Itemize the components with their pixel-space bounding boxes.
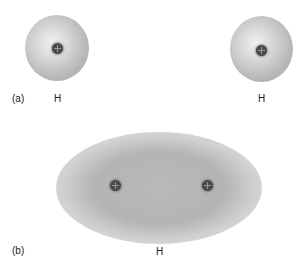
- nucleus-icon: [110, 180, 121, 191]
- hydrogen-atom-right: [230, 16, 293, 82]
- nucleus-icon: [256, 45, 267, 56]
- h2-molecule-cloud: [56, 132, 262, 244]
- atom-label-left: H: [54, 93, 61, 104]
- panel-b-label: (b): [12, 245, 24, 256]
- nucleus-icon: [52, 43, 63, 54]
- atom-label-right: H: [258, 93, 265, 104]
- molecule-label: H: [156, 246, 163, 256]
- hydrogen-atom-left: [25, 15, 89, 81]
- panel-a-label: (a): [12, 93, 24, 104]
- nucleus-icon: [202, 180, 213, 191]
